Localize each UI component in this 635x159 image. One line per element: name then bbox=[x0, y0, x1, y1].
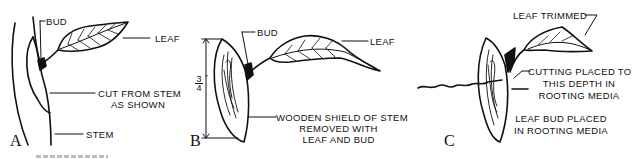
panel-c-bud-label-line1: LEAF BUD PLACED bbox=[513, 113, 609, 124]
panel-b-bud-label: BUD bbox=[257, 27, 278, 38]
panel-c-depth-label-line1: CUTTING PLACED TO bbox=[528, 66, 630, 77]
panel-a-letter: A bbox=[10, 132, 22, 150]
panel-b-shield-label-line3: LEAF AND BUD bbox=[276, 134, 401, 145]
panel-c-depth-label-line2: THIS DEPTH IN bbox=[528, 78, 630, 89]
panel-c-letter: C bbox=[444, 132, 455, 150]
panel-a-leaf-label: LEAF bbox=[155, 33, 180, 44]
panel-b-letter: B bbox=[190, 132, 201, 150]
panel-b-shield-label-line2: REMOVED WITH bbox=[276, 123, 401, 134]
measurement-denominator: 4 bbox=[193, 84, 205, 92]
measurement-numerator: 3 bbox=[193, 75, 205, 83]
panel-a-cut-label-line2: AS SHOWN bbox=[98, 99, 178, 110]
panel-c-depth-label-line3: ROOTING MEDIA bbox=[528, 90, 630, 101]
panel-a-drawing bbox=[12, 17, 150, 145]
panel-b-shield-label-line1: WOODEN SHIELD OF STEM bbox=[276, 112, 401, 123]
panel-a-cut-label-line1: CUT FROM STEM bbox=[98, 88, 178, 99]
panel-b-measurement: 3 4 bbox=[193, 75, 205, 92]
panel-b-leaf-label: LEAF bbox=[370, 36, 395, 47]
panel-c-bud-label-line2: IN ROOTING MEDIA bbox=[513, 125, 609, 136]
measurement-unit: " bbox=[205, 72, 208, 83]
cropped-figure-caption bbox=[36, 153, 108, 159]
panel-a-bud-label: BUD bbox=[46, 16, 67, 27]
panel-c-leaf-trimmed-label: LEAF TRIMMED bbox=[513, 10, 587, 21]
panel-a-stem-label: STEM bbox=[86, 129, 114, 140]
